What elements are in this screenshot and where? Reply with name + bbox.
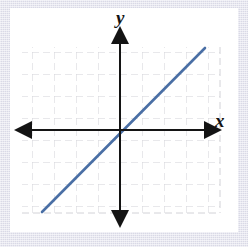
figure-root: x y (0, 0, 248, 247)
plot-card: x y (10, 8, 238, 232)
y-axis-down-arrow-icon (111, 210, 129, 228)
x-axis-label: x (214, 110, 225, 131)
y-axis-up-arrow-icon (111, 26, 129, 44)
y-axis-label: y (114, 8, 125, 28)
coordinate-plane-svg: x y (10, 8, 238, 232)
